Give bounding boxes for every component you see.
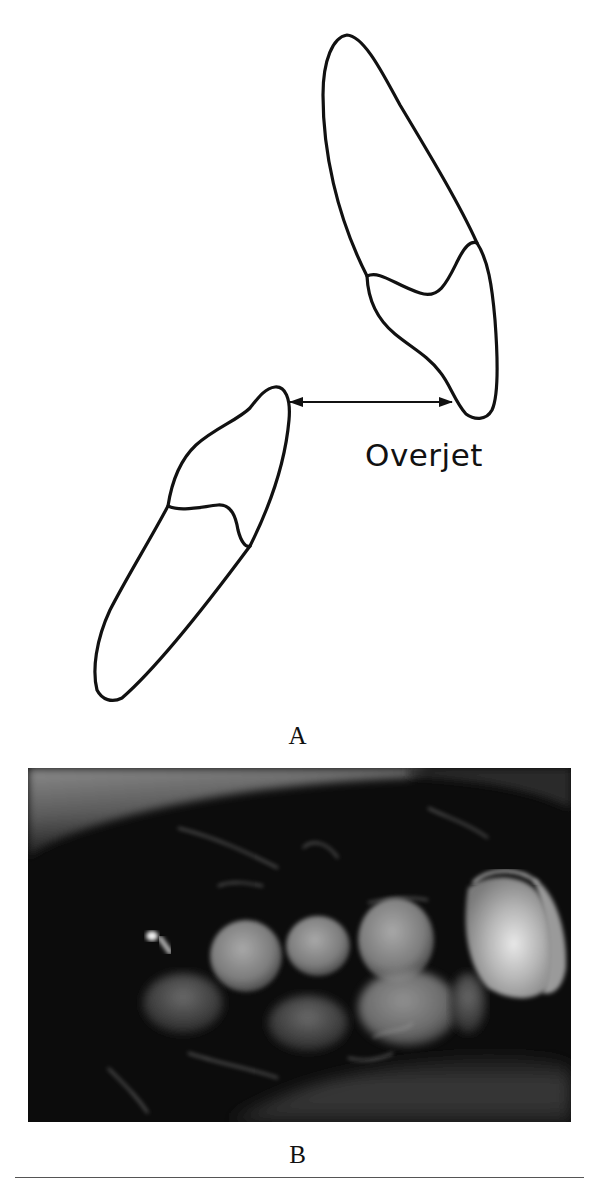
panel-label-a: A <box>0 723 599 748</box>
bottom-rule <box>15 1177 584 1178</box>
lower-incisor-outline <box>95 387 289 700</box>
overjet-label: Overjet <box>365 440 483 471</box>
panel-label-b: B <box>0 1142 599 1167</box>
intraoral-photo <box>28 768 571 1122</box>
upper-incisor-outline <box>323 35 497 418</box>
figure: Overjet A <box>0 0 603 1188</box>
overjet-diagram <box>0 0 603 720</box>
